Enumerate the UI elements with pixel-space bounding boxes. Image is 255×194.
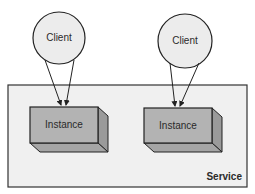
client-node-left: Client: [33, 12, 85, 64]
client-label-left: Client: [46, 32, 72, 43]
instance-box-left: Instance: [30, 107, 108, 152]
client-label-right: Client: [172, 35, 198, 46]
client-node-right: Client: [158, 14, 212, 68]
instance-box-right: Instance: [144, 108, 222, 152]
instance-label-right: Instance: [159, 120, 197, 131]
service-label: Service: [206, 171, 242, 182]
instance-label-left: Instance: [45, 119, 83, 130]
diagram-canvas: Service Client Client Instance Instance: [0, 0, 255, 194]
